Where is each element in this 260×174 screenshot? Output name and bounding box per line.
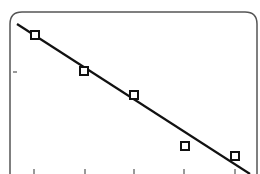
data-markers	[31, 31, 239, 160]
square-marker	[181, 142, 189, 150]
x-axis-ticks	[34, 169, 235, 174]
scatter-plot	[0, 0, 260, 174]
square-marker	[31, 31, 39, 39]
square-marker	[130, 91, 138, 99]
square-marker	[231, 152, 239, 160]
square-marker	[80, 67, 88, 75]
